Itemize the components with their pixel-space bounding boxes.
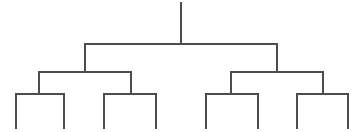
dendrogram-canvas — [0, 0, 361, 132]
dendrogram-figure — [0, 0, 361, 132]
